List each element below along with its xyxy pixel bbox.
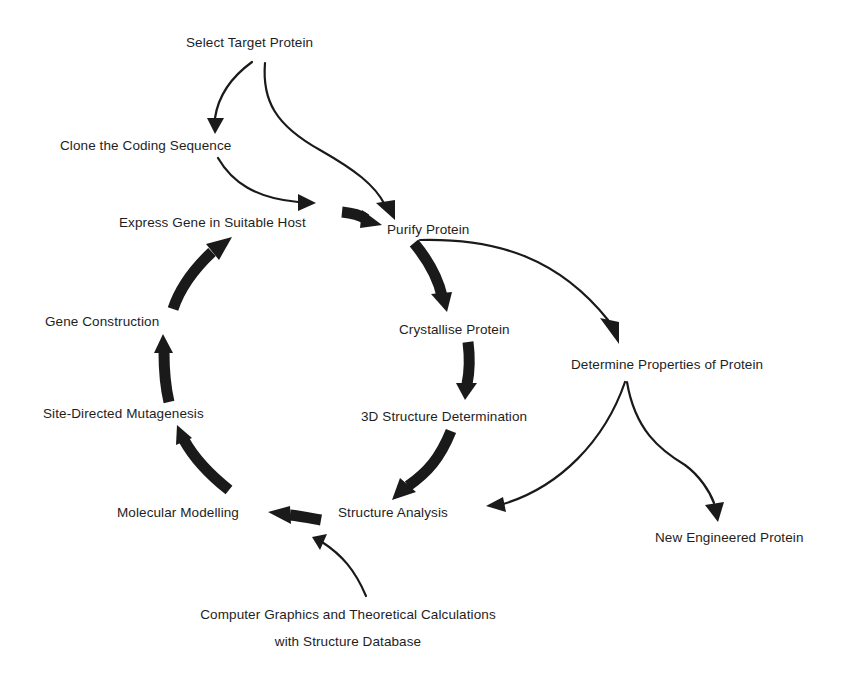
node-computer-graphics-line1: Computer Graphics and Theoretical Calcul… xyxy=(178,607,518,623)
node-gene-construction: Gene Construction xyxy=(45,314,159,330)
node-structure-analysis: Structure Analysis xyxy=(338,505,448,521)
node-3d-structure-determination: 3D Structure Determination xyxy=(361,409,527,425)
node-computer-graphics-line2: with Structure Database xyxy=(178,634,518,650)
arrow-determine-to-new xyxy=(627,382,724,522)
arrow-clone-to-express xyxy=(218,158,316,211)
arrow-analysis-to-modelling xyxy=(268,506,321,524)
node-select-target-protein: Select Target Protein xyxy=(186,35,313,51)
node-express-gene: Express Gene in Suitable Host xyxy=(119,215,306,231)
arrow-purify-to-crystallise xyxy=(414,243,452,312)
node-determine-properties: Determine Properties of Protein xyxy=(571,357,763,373)
node-site-directed-mutagenesis: Site-Directed Mutagenesis xyxy=(43,406,204,422)
node-purify-protein: Purify Protein xyxy=(387,222,469,238)
arrow-select-to-clone xyxy=(207,62,252,134)
arrow-site-to-gene xyxy=(154,334,173,402)
arrow-determine-to-analysis xyxy=(486,382,625,512)
node-molecular-modelling: Molecular Modelling xyxy=(117,505,239,521)
node-new-engineered-protein: New Engineered Protein xyxy=(655,530,804,546)
arrows-layer xyxy=(0,0,868,681)
arrow-crystallise-to-3d xyxy=(456,342,477,400)
node-crystallise-protein: Crystallise Protein xyxy=(399,322,510,338)
arrow-gene-to-express xyxy=(173,237,232,309)
arrow-graphics-to-modelling xyxy=(312,534,366,596)
node-clone-coding-sequence: Clone the Coding Sequence xyxy=(60,138,231,154)
diagram-canvas: Select Target Protein Clone the Coding S… xyxy=(0,0,868,681)
arrow-select-to-purify xyxy=(265,63,395,220)
arrow-modelling-to-site xyxy=(176,425,229,490)
arrow-express-to-purify xyxy=(342,210,382,228)
arrow-3d-to-analysis xyxy=(392,431,451,500)
